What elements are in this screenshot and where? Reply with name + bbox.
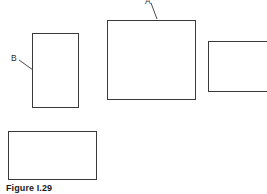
- callout-label-b: B: [11, 54, 17, 63]
- figure-container: A B Figure I.29: [0, 0, 267, 194]
- tall-rectangle: [32, 33, 79, 108]
- callout-label-a: A: [145, 0, 151, 6]
- right-rectangle: [208, 41, 267, 92]
- large-square: [107, 20, 196, 100]
- bottom-left-rectangle: [8, 131, 97, 180]
- figure-caption: Figure I.29: [6, 184, 52, 193]
